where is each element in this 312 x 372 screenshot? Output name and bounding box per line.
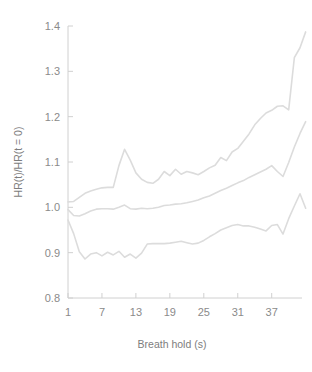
y-tick-label: 1.0	[45, 201, 60, 213]
series-line-mean	[68, 122, 306, 216]
x-axis-title: Breath hold (s)	[138, 338, 207, 350]
axis-tick-marks	[68, 26, 272, 298]
x-tick-label: 19	[164, 306, 176, 318]
line-chart: 0.80.91.01.11.21.31.4 171319253137 Breat…	[0, 0, 312, 372]
series-group	[68, 32, 306, 259]
x-tick-label: 7	[99, 306, 105, 318]
x-tick-label: 37	[266, 306, 278, 318]
y-tick-label: 1.1	[45, 156, 60, 168]
y-tick-label: 1.3	[45, 65, 60, 77]
y-axis-title: HR(t)/HR(t = 0)	[12, 127, 24, 198]
x-tick-label: 31	[232, 306, 244, 318]
y-tick-label: 1.4	[45, 20, 60, 32]
y-tick-label: 0.8	[45, 292, 60, 304]
y-axis-tick-labels: 0.80.91.01.11.21.31.4	[45, 20, 60, 304]
x-tick-label: 25	[198, 306, 210, 318]
y-tick-label: 1.2	[45, 111, 60, 123]
series-line-upper-confidence-bound	[68, 32, 306, 202]
x-tick-label: 13	[130, 306, 142, 318]
y-tick-label: 0.9	[45, 247, 60, 259]
x-axis-tick-labels: 171319253137	[65, 306, 278, 318]
chart-container: 0.80.91.01.11.21.31.4 171319253137 Breat…	[0, 0, 312, 372]
x-tick-label: 1	[65, 306, 71, 318]
